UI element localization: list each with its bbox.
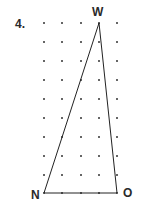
vertex-label-o: O	[123, 187, 132, 199]
grid-dot	[61, 22, 63, 24]
problem-number: 4.	[15, 18, 25, 30]
grid-dot	[80, 117, 82, 119]
grid-dot	[80, 98, 82, 100]
grid-dot	[80, 136, 82, 138]
grid-dot	[80, 155, 82, 157]
grid-dot	[43, 41, 45, 43]
grid-dot	[116, 155, 118, 157]
grid-dot	[43, 155, 45, 157]
grid-dot	[98, 117, 100, 119]
vertex-label-w: W	[92, 6, 103, 18]
grid-dot	[61, 98, 63, 100]
grid-dot	[80, 41, 82, 43]
grid-dot	[98, 136, 100, 138]
grid-dot	[80, 22, 82, 24]
grid-dot	[116, 117, 118, 119]
triangle-wno	[44, 23, 117, 193]
grid-dot	[61, 60, 63, 62]
grid-dot	[80, 174, 82, 176]
grid-dot	[116, 22, 118, 24]
grid-dots	[43, 22, 118, 194]
grid-dot	[98, 79, 100, 81]
grid-dot	[116, 136, 118, 138]
grid-dot	[116, 79, 118, 81]
grid-dot	[116, 174, 118, 176]
grid-dot	[61, 117, 63, 119]
grid-dot	[43, 79, 45, 81]
grid-dot	[98, 98, 100, 100]
grid-dot	[61, 79, 63, 81]
grid-dot	[116, 60, 118, 62]
grid-dot	[61, 41, 63, 43]
grid-dot	[43, 174, 45, 176]
grid-dot	[98, 60, 100, 62]
grid-dot	[116, 41, 118, 43]
grid-dot	[43, 136, 45, 138]
grid-dot	[43, 117, 45, 119]
grid-dot	[98, 174, 100, 176]
grid-dot	[80, 60, 82, 62]
grid-dot	[43, 98, 45, 100]
dot-grid-canvas	[0, 0, 151, 211]
grid-dot	[116, 98, 118, 100]
grid-dot	[61, 155, 63, 157]
grid-dot	[98, 155, 100, 157]
grid-dot	[43, 22, 45, 24]
vertex-label-n: N	[31, 189, 40, 201]
grid-dot	[43, 60, 45, 62]
grid-dot	[98, 41, 100, 43]
grid-dot	[61, 174, 63, 176]
